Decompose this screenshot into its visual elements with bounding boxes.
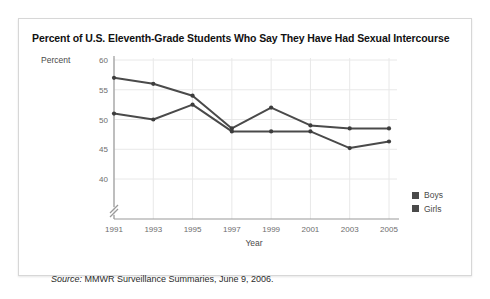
x-axis-label: Year (245, 238, 262, 248)
y-tick-labels-group: 4045505560 (99, 56, 108, 184)
y-axis-label: Percent (41, 55, 71, 65)
legend-label-girls: Girls (424, 205, 441, 214)
x-tick-label: 1995 (184, 225, 202, 234)
data-point (269, 106, 273, 110)
x-tick-label: 1993 (144, 225, 162, 234)
data-point (387, 139, 391, 143)
x-tick-label: 1999 (262, 225, 280, 234)
data-point (387, 126, 391, 130)
source-note: Source: MMWR Surveillance Summaries, Jun… (51, 274, 274, 284)
y-tick-label: 60 (99, 56, 108, 65)
data-point (190, 103, 194, 107)
y-tick-label: 40 (99, 175, 108, 184)
data-point (151, 82, 155, 86)
source-text: MMWR Surveillance Summaries, June 9, 200… (82, 274, 274, 284)
data-point (151, 117, 155, 121)
data-point (112, 76, 116, 80)
y-tick-label: 50 (99, 116, 108, 125)
x-tick-label: 2001 (302, 225, 320, 234)
data-point (190, 94, 194, 98)
legend-item-girls: Girls (412, 205, 474, 214)
series-line-boys (114, 78, 389, 129)
data-point (348, 126, 352, 130)
figure-card: Percent of U.S. Eleventh-Grade Students … (18, 18, 472, 276)
x-tick-labels-group: 19911993199519971999200120032005 (105, 225, 398, 234)
x-tick-label: 2005 (380, 225, 398, 234)
y-tick-label: 55 (99, 86, 108, 95)
y-tick-label: 45 (99, 145, 108, 154)
data-point (112, 111, 116, 115)
legend-swatch-girls (412, 205, 419, 212)
x-tick-label: 1997 (223, 225, 241, 234)
data-point (230, 129, 234, 133)
legend-swatch-boys (412, 192, 419, 199)
data-point (348, 146, 352, 150)
gridlines-group (114, 58, 397, 219)
chart-legend: Boys Girls (412, 191, 474, 218)
data-point (308, 129, 312, 133)
legend-item-boys: Boys (412, 191, 474, 200)
source-label: Source: (51, 274, 82, 284)
data-point (269, 129, 273, 133)
series-line-girls (114, 105, 389, 148)
line-chart-svg: 4045505560 19911993199519971999200120032… (19, 19, 473, 277)
x-tick-label: 2003 (341, 225, 359, 234)
x-tick-label: 1991 (105, 225, 123, 234)
legend-label-boys: Boys (424, 191, 443, 200)
data-point (308, 123, 312, 127)
chart-plot-area: 4045505560 19911993199519971999200120032… (19, 19, 473, 277)
